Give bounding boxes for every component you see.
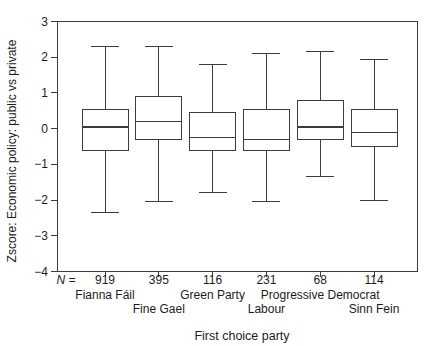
iqr-box xyxy=(136,97,182,140)
y-tick-label: −3 xyxy=(34,229,48,243)
category-label: Green Party xyxy=(180,288,245,302)
iqr-box xyxy=(351,109,397,147)
category-label: Sinn Fein xyxy=(349,302,400,316)
y-tick-label: −1 xyxy=(34,157,48,171)
iqr-box xyxy=(243,109,289,150)
category-label: Fianna Fáil xyxy=(75,288,134,302)
y-tick-label: −4 xyxy=(34,265,48,279)
y-tick-label: 0 xyxy=(41,122,48,136)
n-value: 231 xyxy=(256,273,276,287)
n-value: 68 xyxy=(314,273,328,287)
iqr-box xyxy=(297,100,343,139)
n-value: 114 xyxy=(364,273,383,287)
category-label: Progressive Democrat xyxy=(261,288,380,302)
iqr-box xyxy=(82,109,128,150)
x-axis-title: First choice party xyxy=(57,329,427,343)
y-tick-label: 3 xyxy=(41,15,48,29)
boxplot-chart: 3210−1−2−3−4N =919Fianna Fáil395Fine Gae… xyxy=(0,0,438,346)
n-value: 395 xyxy=(149,273,169,287)
iqr-box xyxy=(190,113,236,151)
n-value: 116 xyxy=(203,273,222,287)
y-tick-label: −2 xyxy=(34,193,48,207)
y-tick-label: 2 xyxy=(41,50,48,64)
boxplot-figure: Zscore: Economic policy: public vs priva… xyxy=(0,0,438,346)
n-equals-label: N = xyxy=(56,273,75,287)
y-tick-label: 1 xyxy=(41,86,48,100)
n-value: 919 xyxy=(95,273,115,287)
category-label: Labour xyxy=(248,302,285,316)
category-label: Fine Gael xyxy=(133,302,185,316)
